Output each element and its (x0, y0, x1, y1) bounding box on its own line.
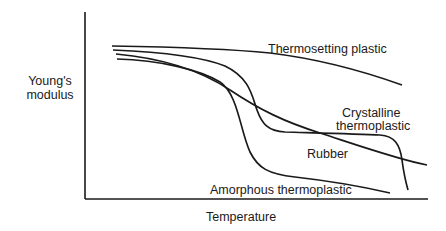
y-axis-label: Young's modulus (20, 74, 80, 102)
x-axis-label: Temperature (206, 210, 276, 224)
y-axis-label-line1: Young's (20, 74, 80, 88)
y-axis-label-line2: modulus (20, 88, 80, 102)
label-rubber: Rubber (307, 147, 348, 161)
label-thermosetting-plastic: Thermosetting plastic (268, 42, 387, 56)
label-crystalline-thermoplastic: Crystalline thermoplastic (336, 107, 410, 133)
label-crystalline-line2: thermoplastic (336, 120, 410, 133)
label-amorphous-thermoplastic: Amorphous thermoplastic (210, 183, 352, 197)
